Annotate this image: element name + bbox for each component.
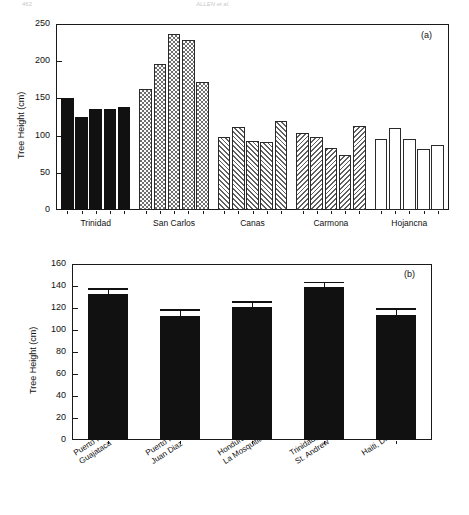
bar-a-san-carlos-2: [168, 34, 181, 210]
y-tick-label-b: 0: [38, 434, 66, 444]
y-tick-mark-b: [73, 418, 78, 419]
bar-a-canas-3: [260, 142, 273, 210]
y-tick-label-b: 100: [38, 324, 66, 334]
x-tick-mark-a: [203, 211, 204, 214]
y-tick-mark-b: [73, 352, 78, 353]
bar-a-canas-2: [246, 141, 259, 210]
bar-a-san-carlos-3: [182, 40, 195, 210]
error-bar-cap-0: [88, 288, 128, 290]
x-tick-mark-a: [395, 211, 396, 214]
y-tick-label-b: 20: [38, 412, 66, 422]
x-tick-mark-a: [303, 211, 304, 214]
error-bar-cap-3: [304, 282, 344, 284]
panel-label-b: (b): [404, 269, 415, 279]
bar-a-trinidad-4: [118, 107, 131, 210]
panel-b: (b)Tree Height (cm)020406080100120140160…: [0, 252, 469, 515]
bar-a-hojancna-2: [403, 139, 416, 210]
bar-a-carmona-4: [353, 126, 366, 210]
x-tick-mark-a: [345, 211, 346, 214]
bar-a-canas-4: [275, 121, 288, 210]
y-tick-mark-b: [73, 308, 78, 309]
bar-a-trinidad-0: [61, 98, 74, 210]
bar-a-hojancna-4: [431, 145, 444, 210]
bar-a-canas-1: [232, 127, 245, 210]
y-tick-label-b: 140: [38, 280, 66, 290]
x-tick-mark-a: [174, 211, 175, 214]
x-tick-mark-a: [253, 211, 254, 214]
bar-b-0: [88, 294, 128, 440]
bar-a-san-carlos-4: [196, 82, 209, 210]
x-tick-mark-a: [124, 211, 125, 214]
bar-a-carmona-0: [296, 133, 309, 210]
y-tick-mark-a: [57, 61, 62, 62]
y-tick-mark-b: [73, 396, 78, 397]
x-tick-mark-a: [424, 211, 425, 214]
x-tick-mark-a: [82, 211, 83, 214]
x-tick-mark-a: [238, 211, 239, 214]
x-tick-mark-a: [331, 211, 332, 214]
x-tick-mark-a: [67, 211, 68, 214]
x-tick-mark-a: [359, 211, 360, 214]
bar-b-4: [376, 315, 416, 440]
x-tick-mark-a: [267, 211, 268, 214]
x-tick-mark-a: [381, 211, 382, 214]
bar-a-hojancna-1: [389, 128, 402, 210]
panel-label-a: (a): [421, 30, 432, 40]
y-tick-mark-b: [73, 330, 78, 331]
y-tick-label-b: 80: [38, 346, 66, 356]
y-tick-label-b: 60: [38, 368, 66, 378]
bar-b-2: [232, 307, 272, 440]
group-label-hojancna: Hojancna: [375, 218, 444, 228]
bar-a-trinidad-2: [89, 109, 102, 210]
x-tick-mark-a: [160, 211, 161, 214]
panel-a: (a)Tree Height (cm)050100150200250Trinid…: [0, 0, 469, 250]
bar-b-1: [160, 316, 200, 440]
y-tick-label-a: 250: [22, 18, 50, 28]
x-tick-mark-a: [317, 211, 318, 214]
x-tick-mark-a: [110, 211, 111, 214]
group-label-san-carlos: San Carlos: [139, 218, 208, 228]
x-tick-mark-a: [146, 211, 147, 214]
y-tick-mark-b: [73, 286, 78, 287]
y-tick-label-a: 50: [22, 167, 50, 177]
x-tick-mark-b: [396, 441, 397, 444]
error-bar-cap-4: [376, 308, 416, 310]
group-label-trinidad: Trinidad: [61, 218, 130, 228]
y-tick-label-a: 0: [22, 204, 50, 214]
group-label-carmona: Carmona: [296, 218, 365, 228]
bar-b-3: [304, 287, 344, 440]
bar-a-hojancna-0: [375, 139, 388, 210]
x-tick-mark-a: [409, 211, 410, 214]
x-tick-mark-a: [281, 211, 282, 214]
bar-a-hojancna-3: [417, 149, 430, 210]
y-tick-label-a: 200: [22, 55, 50, 65]
bar-a-carmona-2: [325, 148, 338, 210]
y-tick-label-b: 120: [38, 302, 66, 312]
x-tick-mark-a: [96, 211, 97, 214]
y-axis-label-b: Tree Height (cm): [28, 327, 38, 394]
bar-a-san-carlos-0: [139, 89, 152, 210]
x-tick-mark-a: [438, 211, 439, 214]
y-tick-label-a: 150: [22, 92, 50, 102]
error-bar-cap-1: [160, 309, 200, 311]
bar-a-san-carlos-1: [154, 64, 167, 210]
y-tick-label-b: 40: [38, 390, 66, 400]
x-tick-mark-a: [188, 211, 189, 214]
y-tick-label-a: 100: [22, 130, 50, 140]
group-label-canas: Canas: [218, 218, 287, 228]
bar-a-carmona-1: [310, 137, 323, 210]
error-bar-cap-2: [232, 301, 272, 303]
bar-a-trinidad-3: [104, 109, 117, 210]
x-tick-mark-a: [224, 211, 225, 214]
bar-a-canas-0: [218, 137, 231, 210]
y-tick-mark-b: [73, 374, 78, 375]
y-tick-label-b: 160: [38, 258, 66, 268]
bar-a-carmona-3: [339, 155, 352, 210]
bar-a-trinidad-1: [75, 117, 88, 210]
